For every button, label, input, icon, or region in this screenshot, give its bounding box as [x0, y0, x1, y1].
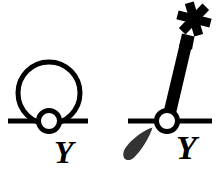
left-panel-label-y: Y: [54, 136, 74, 168]
drip-teardrop: [123, 128, 152, 161]
left-panel-group: [8, 62, 88, 132]
match-head: [179, 34, 195, 50]
spark-burst-icon: [173, 0, 214, 40]
right-panel-group: [123, 0, 214, 160]
right-vertex-circle: [157, 111, 178, 132]
left-vertex-circle: [39, 111, 60, 132]
right-panel-label-y: Y: [176, 131, 197, 165]
figure-canvas: Y Y: [0, 0, 221, 177]
